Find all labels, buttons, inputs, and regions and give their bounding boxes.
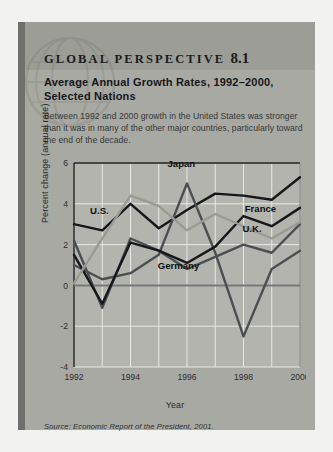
- feature-box: GLOBAL PERSPECTIVE 8.1 Average Annual Gr…: [18, 22, 315, 430]
- x-tick-label: 2000: [290, 372, 306, 382]
- x-tick-label: 1994: [121, 372, 140, 382]
- chart-plot-svg: 6420-2-419921994199619982000U.S.JapanGer…: [44, 157, 306, 397]
- page-canvas: GLOBAL PERSPECTIVE 8.1 Average Annual Gr…: [0, 0, 333, 452]
- y-tick-label: -2: [60, 321, 68, 331]
- x-tick-label: 1996: [177, 372, 196, 382]
- chart-y-axis-label: Percent change (annual rate): [40, 103, 50, 223]
- series-label-france: France: [245, 203, 276, 214]
- chart-x-axis-label: Year: [44, 400, 306, 410]
- y-tick-label: 0: [63, 281, 68, 291]
- series-label-uk: U.K.: [242, 223, 261, 234]
- series-label-us: U.S.: [90, 205, 109, 216]
- series-label-germany: Germany: [158, 260, 200, 271]
- y-tick-label: 4: [63, 199, 68, 209]
- growth-rates-chart: Percent change (annual rate) Year 6420-2…: [44, 157, 306, 415]
- y-tick-label: 2: [63, 240, 68, 250]
- figure-source: Source: Economic Report of the President…: [44, 422, 308, 431]
- feature-kicker: GLOBAL PERSPECTIVE 8.1: [44, 50, 249, 67]
- feature-left-spine: [18, 22, 25, 430]
- x-tick-label: 1992: [64, 372, 83, 382]
- feature-blurb: Between 1992 and 2000 growth in the Unit…: [44, 110, 308, 147]
- y-tick-label: -4: [60, 362, 68, 372]
- feature-headline: Average Annual Growth Rates, 1992–2000, …: [44, 76, 294, 103]
- x-tick-label: 1998: [234, 372, 253, 382]
- series-label-japan: Japan: [167, 158, 195, 169]
- feature-number: 8.1: [230, 50, 249, 66]
- y-tick-label: 6: [63, 158, 68, 168]
- feature-kicker-text: GLOBAL PERSPECTIVE: [44, 52, 225, 66]
